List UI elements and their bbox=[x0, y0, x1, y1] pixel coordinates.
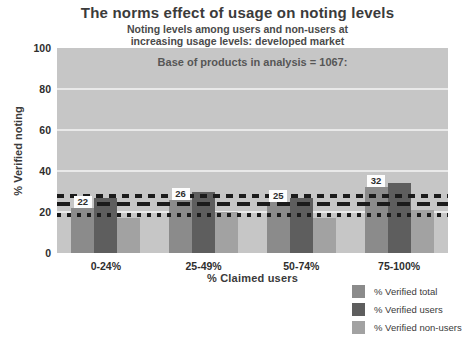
bar bbox=[215, 212, 238, 253]
bar-value-label: 32 bbox=[367, 175, 385, 187]
y-tick-label: 40 bbox=[21, 165, 51, 177]
bar bbox=[313, 218, 336, 253]
bar bbox=[117, 218, 140, 253]
gridline bbox=[57, 88, 448, 90]
bar bbox=[290, 198, 313, 253]
legend-item-total: % Verified total bbox=[352, 285, 462, 298]
y-axis-title: % Verified noting bbox=[12, 49, 26, 254]
reference-line bbox=[57, 213, 448, 217]
chart-title: The norms effect of usage on noting leve… bbox=[0, 4, 475, 21]
bar-value-label: 25 bbox=[269, 190, 287, 202]
plot-area: Base of products in analysis = 1067: 222… bbox=[57, 48, 448, 253]
bar bbox=[192, 192, 215, 254]
x-tick-label: 50-74% bbox=[261, 260, 341, 272]
y-tick-label: 60 bbox=[21, 124, 51, 136]
legend-item-users: % Verified users bbox=[352, 303, 462, 316]
bar bbox=[94, 198, 117, 253]
legend-label-users: % Verified users bbox=[374, 304, 443, 315]
legend: % Verified total % Verified users % Veri… bbox=[352, 285, 462, 339]
legend-label-total: % Verified total bbox=[374, 286, 437, 297]
base-annotation: Base of products in analysis = 1067: bbox=[57, 56, 448, 68]
gridline bbox=[57, 170, 448, 172]
reference-line bbox=[57, 194, 448, 198]
reference-line bbox=[57, 202, 448, 206]
chart-subtitle-line-1: Noting levels among users and non-users … bbox=[0, 23, 475, 35]
bar-value-label: 26 bbox=[172, 188, 190, 200]
gridline bbox=[57, 129, 448, 131]
x-tick-label: 75-100% bbox=[359, 260, 439, 272]
legend-swatch-users bbox=[352, 303, 365, 316]
y-tick-label: 0 bbox=[21, 247, 51, 259]
legend-swatch-non-users bbox=[352, 321, 365, 334]
x-tick-label: 0-24% bbox=[66, 260, 146, 272]
chart-subtitle-line-2: increasing usage levels: developed marke… bbox=[0, 35, 475, 47]
y-tick-label: 20 bbox=[21, 206, 51, 218]
bar-value-label: 22 bbox=[74, 196, 92, 208]
legend-label-non-users: % Verified non-users bbox=[374, 322, 462, 333]
y-tick-label: 80 bbox=[21, 83, 51, 95]
bar bbox=[169, 200, 192, 253]
slide-chart: The norms effect of usage on noting leve… bbox=[0, 0, 475, 342]
legend-item-non-users: % Verified non-users bbox=[352, 321, 462, 334]
x-tick-label: 25-49% bbox=[164, 260, 244, 272]
x-axis-title: % Claimed users bbox=[57, 272, 448, 284]
bar bbox=[267, 202, 290, 253]
legend-swatch-total bbox=[352, 285, 365, 298]
y-tick-label: 100 bbox=[21, 42, 51, 54]
